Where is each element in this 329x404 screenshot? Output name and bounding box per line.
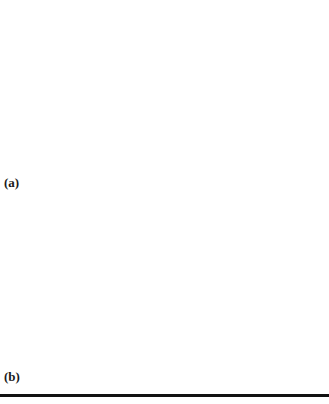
panel-b-label: (b) — [4, 369, 20, 385]
figure-canvas — [0, 0, 329, 404]
bottom-rule — [0, 394, 329, 397]
panel-a-label: (a) — [4, 175, 19, 191]
